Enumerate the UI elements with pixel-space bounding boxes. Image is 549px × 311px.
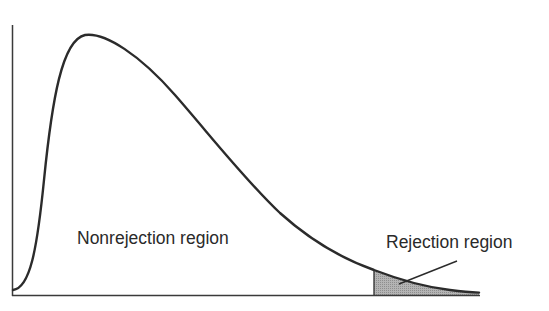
rejection-leader-line [399,261,457,284]
rejection-region-diagram [0,0,549,311]
density-curve [13,35,479,293]
nonrejection-region-label: Nonrejection region [77,230,229,248]
rejection-region-label: Rejection region [386,234,512,252]
